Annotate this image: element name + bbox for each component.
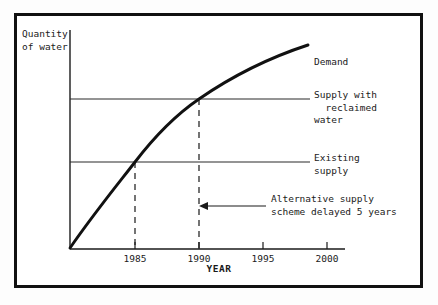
x-axis-title: YEAR (0, 263, 438, 276)
label-alternative-scheme: Alternative supplyscheme delayed 5 years (271, 193, 397, 218)
label-alternative-scheme-line1: Alternative supply (271, 193, 374, 204)
label-supply-reclaimed-line1: Supply with (314, 89, 377, 100)
label-supply-reclaimed-line2: reclaimed (314, 102, 377, 113)
label-supply-existing-line1: Existing (314, 152, 360, 163)
callout-arrow-head-icon (199, 202, 208, 210)
y-axis-label: Quantityof water (22, 28, 68, 53)
chart-figure: Quantityof water Demand Supply with recl… (0, 0, 438, 305)
label-supply-existing: Existingsupply (314, 152, 360, 177)
label-supply-reclaimed: Supply with reclaimedwater (314, 89, 377, 127)
y-axis-label-line2: of water (22, 41, 68, 52)
label-supply-existing-line2: supply (314, 165, 348, 176)
label-demand: Demand (314, 56, 348, 69)
y-axis-label-line1: Quantity (22, 28, 68, 39)
label-demand-text: Demand (314, 56, 348, 67)
label-supply-reclaimed-line3: water (314, 114, 343, 125)
label-alternative-scheme-line2: scheme delayed 5 years (271, 206, 397, 217)
